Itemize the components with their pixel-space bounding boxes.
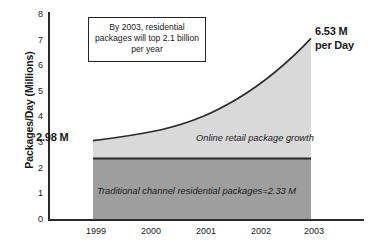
start-value-label: 2.98 M [36, 131, 68, 143]
x-tick-2000: 2000 [141, 226, 161, 236]
x-axis-ticks: 1999 2000 2001 2002 2003 [0, 226, 377, 240]
x-tick-2003: 2003 [304, 226, 324, 236]
end-value-line1: 6.53 M [315, 25, 354, 39]
annotation-callout-box: By 2003, residential packages will top 2… [88, 17, 206, 62]
series-label-online-retail: Online retail package growth [196, 133, 314, 143]
end-value-line2: per Day [315, 39, 354, 53]
series-label-traditional-channel: Traditional channel residential packages… [97, 186, 296, 196]
x-tick-1999: 1999 [86, 226, 106, 236]
x-tick-2002: 2002 [251, 226, 271, 236]
chart-container: Packages/Day (Millions) 8 7 6 5 4 3 2 1 … [0, 0, 377, 244]
x-tick-2001: 2001 [196, 226, 216, 236]
end-value-label: 6.53 M per Day [315, 25, 354, 52]
